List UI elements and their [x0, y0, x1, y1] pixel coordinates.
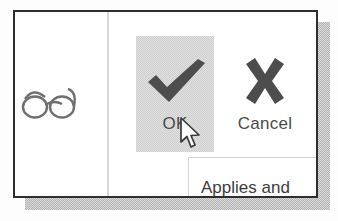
- hint-text: Applies and: [201, 178, 290, 198]
- ok-button-label: OK: [136, 114, 214, 134]
- screenshot-canvas: OK Cancel Applies and: [0, 0, 338, 221]
- cancel-button-label: Cancel: [216, 114, 314, 134]
- ok-button[interactable]: OK: [136, 36, 214, 152]
- cancel-button[interactable]: Cancel: [216, 36, 314, 152]
- dialog-window: OK Cancel Applies and: [13, 10, 318, 198]
- hint-panel: Applies and: [188, 157, 318, 198]
- left-column: [15, 12, 107, 196]
- glasses-icon: [17, 82, 87, 122]
- x-mark-icon: [216, 54, 314, 108]
- column-divider: [107, 12, 109, 196]
- checkmark-icon: [136, 54, 214, 108]
